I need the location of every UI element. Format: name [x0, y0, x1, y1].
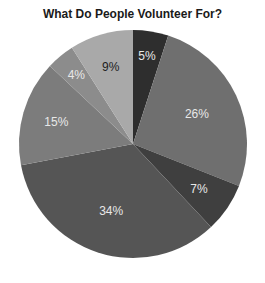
slice-label: 4%: [68, 68, 86, 82]
slice-label: 5%: [138, 49, 156, 63]
slice-label: 26%: [185, 107, 209, 121]
slice-label: 34%: [99, 204, 123, 218]
slice-label: 7%: [190, 182, 208, 196]
slice-label: 9%: [102, 60, 120, 74]
slice-label: 15%: [44, 115, 68, 129]
pie-slices: [19, 30, 247, 258]
pie-chart: 5%26%7%34%15%4%9%: [0, 0, 265, 283]
